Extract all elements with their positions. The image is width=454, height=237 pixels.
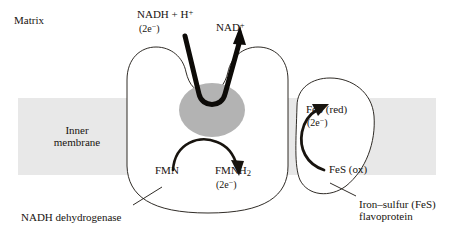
fes-ox-label: FeS (ox) (329, 163, 367, 175)
nadh-dehydrogenase-caption: NADH dehydrogenase (21, 211, 122, 223)
fmnh2-label-sub: 2 (247, 168, 251, 178)
nadh-electrons-open: (2e (139, 23, 152, 34)
inner-membrane-label-line1: Inner (42, 124, 112, 136)
fes-red-label: FeS (red) (306, 103, 347, 115)
fmnh2-label: FMNH2 (215, 164, 251, 178)
iron-sulfur-caption-line2: flavoprotein (359, 210, 436, 222)
nadh-electrons-close: ) (156, 23, 159, 34)
nad-label-charge: + (240, 20, 245, 30)
iron-sulfur-flavoprotein-body (296, 78, 374, 194)
fmn-label: FMN (155, 164, 179, 176)
fmnh2-electrons-close: ) (233, 179, 236, 190)
figure-canvas: Matrix Inner membrane NADH + H+ (2e−) NA… (0, 0, 454, 237)
nad-label: NAD+ (216, 21, 245, 33)
fmnh2-electrons-label: (2e−) (216, 179, 237, 190)
iron-sulfur-caption-line1: Iron–sulfur (FeS) (359, 198, 436, 210)
matrix-label: Matrix (14, 14, 44, 26)
fes-red-electrons-close: ) (324, 117, 327, 128)
fes-red-electrons-label: (2e−) (307, 117, 328, 128)
fmnh2-label-name: FMNH (215, 164, 247, 176)
active-site-blob (179, 83, 245, 137)
inner-membrane-label-line2: membrane (42, 136, 112, 148)
nadh-label-charge: + (188, 7, 193, 17)
fmnh2-electrons-open: (2e (216, 179, 229, 190)
nadh-label: NADH + H+ (137, 8, 193, 20)
iron-sulfur-caption: Iron–sulfur (FeS) flavoprotein (359, 198, 436, 223)
nadh-electrons-label: (2e−) (139, 23, 160, 34)
inner-membrane-label: Inner membrane (42, 124, 112, 149)
nadh-label-name: NADH + H (137, 8, 188, 20)
fes-red-electrons-open: (2e (307, 117, 320, 128)
nad-label-name: NAD (216, 21, 240, 33)
